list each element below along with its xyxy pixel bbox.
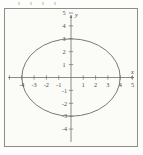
x-tick-label--1: -1 <box>56 81 61 88</box>
y-tick-labels: 5 4 3 2 1 -1 -2 -3 -4 <box>62 9 67 132</box>
scan-artifact-specks <box>0 0 143 7</box>
y-tick-label-2: 2 <box>62 48 65 55</box>
y-tick-label-3: 3 <box>62 35 65 42</box>
y-tick-label-5: 5 <box>62 9 65 16</box>
x-tick-label--2: -2 <box>44 81 49 88</box>
plot-frame: -4 -3 -2 -1 1 2 3 4 5 5 4 3 2 1 -1 -2 -3… <box>4 8 138 147</box>
y-tick-label-1: 1 <box>62 61 65 68</box>
x-axis-label: x <box>130 68 134 75</box>
x-tick-labels: -4 -3 -2 -1 1 2 3 4 5 <box>19 81 134 88</box>
y-tick-label--3: -3 <box>62 112 67 119</box>
figure-root: -4 -3 -2 -1 1 2 3 4 5 5 4 3 2 1 -1 -2 -3… <box>0 0 143 155</box>
y-tick-label-4: 4 <box>62 22 65 29</box>
x-tick-label-3: 3 <box>106 81 109 88</box>
x-tick-label--4: -4 <box>19 81 24 88</box>
y-tick-label--4: -4 <box>62 125 67 132</box>
y-tick-label--2: -2 <box>62 100 67 107</box>
x-tick-label-1: 1 <box>82 81 85 88</box>
y-axis-label: y <box>74 11 78 18</box>
y-axis-arrow-top <box>70 15 73 18</box>
x-tick-label-4: 4 <box>119 81 122 88</box>
x-tick-label-2: 2 <box>94 81 97 88</box>
plot-svg: -4 -3 -2 -1 1 2 3 4 5 5 4 3 2 1 -1 -2 -3… <box>5 9 137 146</box>
x-tick-label--3: -3 <box>32 81 37 88</box>
x-tick-label-5: 5 <box>131 81 134 88</box>
y-tick-label--1: -1 <box>62 87 67 94</box>
